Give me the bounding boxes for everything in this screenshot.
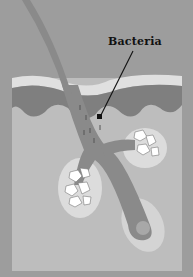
follicle-diagram: Bacteria <box>0 0 193 277</box>
dermal-papilla <box>136 221 150 235</box>
bacteria-label: Bacteria <box>108 35 162 48</box>
label-pointer-dot <box>97 114 102 119</box>
follicle-illustration <box>0 0 193 277</box>
